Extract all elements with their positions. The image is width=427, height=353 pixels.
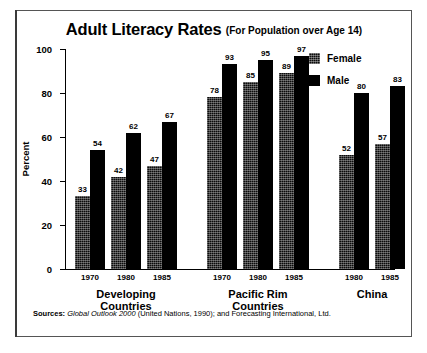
bar-value-label: 33 bbox=[78, 185, 87, 194]
y-axis-label: Percent bbox=[20, 142, 31, 177]
chart-title-row: Adult Literacy Rates (For Population ove… bbox=[17, 20, 411, 39]
x-year-label: 1985 bbox=[153, 273, 171, 282]
sources-note: Sources: Global Outlook 2000 (United Nat… bbox=[33, 309, 331, 318]
sources-rest: (United Nations, 1990); and Forecasting … bbox=[138, 309, 331, 318]
chart-legend: Female Male bbox=[309, 53, 361, 97]
bar-female: 42 bbox=[111, 177, 126, 269]
x-year-label: 1980 bbox=[117, 273, 135, 282]
bar-value-label: 54 bbox=[93, 139, 102, 148]
legend-item-female: Female bbox=[309, 53, 361, 64]
sources-title: Global Outlook 2000 bbox=[67, 309, 135, 318]
x-year-label: 1970 bbox=[213, 273, 231, 282]
legend-swatch-female-icon bbox=[309, 53, 320, 64]
bar-value-label: 85 bbox=[246, 71, 255, 80]
y-tick-label: 0 bbox=[47, 264, 52, 275]
bar-female: 85 bbox=[243, 82, 258, 269]
y-tick-label: 20 bbox=[41, 220, 52, 231]
y-tick: 80 bbox=[60, 93, 65, 94]
bar-female: 57 bbox=[375, 144, 390, 269]
chart-figure: Adult Literacy Rates (For Population ove… bbox=[16, 10, 412, 337]
y-tick: 40 bbox=[60, 181, 65, 182]
bar-value-label: 67 bbox=[165, 111, 174, 120]
bar-female: 78 bbox=[207, 97, 222, 269]
legend-label-male: Male bbox=[327, 75, 349, 86]
bar-value-label: 42 bbox=[114, 166, 123, 175]
legend-item-male: Male bbox=[309, 75, 361, 86]
bar-value-label: 97 bbox=[297, 45, 306, 54]
bar-male: 67 bbox=[162, 122, 177, 269]
bar-female: 47 bbox=[147, 166, 162, 269]
x-group-label: China bbox=[357, 289, 388, 301]
y-tick: 0 bbox=[60, 269, 65, 270]
y-tick-label: 80 bbox=[41, 88, 52, 99]
y-tick: 100 bbox=[60, 49, 65, 50]
bar-value-label: 47 bbox=[150, 155, 159, 164]
chart-subtitle: (For Population over Age 14) bbox=[226, 25, 362, 36]
bar-value-label: 78 bbox=[210, 86, 219, 95]
x-year-label: 1980 bbox=[249, 273, 267, 282]
y-tick-label: 40 bbox=[41, 176, 52, 187]
x-year-label: 1985 bbox=[285, 273, 303, 282]
bar-male: 95 bbox=[258, 60, 273, 269]
sources-label: Sources: bbox=[33, 309, 65, 318]
x-year-label: 1980 bbox=[345, 273, 363, 282]
x-axis-line bbox=[65, 269, 395, 270]
y-tick: 60 bbox=[60, 137, 65, 138]
bar-male: 80 bbox=[354, 93, 369, 269]
page-title: Adult Literacy Rates bbox=[66, 20, 222, 38]
bar-male: 97 bbox=[294, 56, 309, 269]
y-axis-line bbox=[65, 49, 66, 269]
bar-female: 89 bbox=[279, 73, 294, 269]
bar-value-label: 57 bbox=[378, 133, 387, 142]
bar-value-label: 93 bbox=[225, 53, 234, 62]
bar-value-label: 62 bbox=[129, 122, 138, 131]
bar-male: 62 bbox=[126, 133, 141, 269]
bar-value-label: 95 bbox=[261, 49, 270, 58]
bar-male: 83 bbox=[390, 86, 405, 269]
x-year-label: 1970 bbox=[81, 273, 99, 282]
x-year-label: 1985 bbox=[381, 273, 399, 282]
bar-value-label: 83 bbox=[393, 75, 402, 84]
y-tick: 20 bbox=[60, 225, 65, 226]
bar-male: 93 bbox=[222, 64, 237, 269]
bar-value-label: 89 bbox=[282, 62, 291, 71]
bar-female: 33 bbox=[75, 196, 90, 269]
bar-female: 52 bbox=[339, 155, 354, 269]
y-tick-label: 100 bbox=[36, 44, 52, 55]
legend-swatch-male-icon bbox=[309, 75, 320, 86]
legend-label-female: Female bbox=[327, 53, 361, 64]
bar-male: 54 bbox=[90, 150, 105, 269]
bar-value-label: 52 bbox=[342, 144, 351, 153]
y-tick-label: 60 bbox=[41, 132, 52, 143]
